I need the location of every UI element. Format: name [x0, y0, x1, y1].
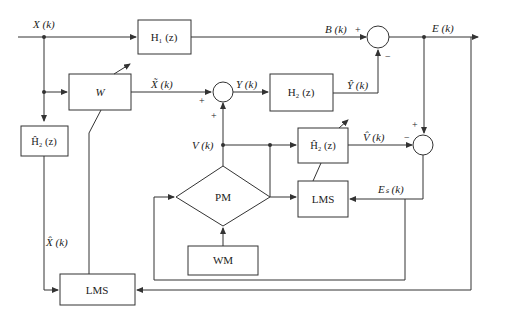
label-y: Y (k) — [236, 78, 257, 91]
block-lms-right-label: LMS — [312, 193, 335, 205]
label-vhat: V̂ (k) — [363, 131, 385, 144]
lms-to-h2hat-line — [313, 163, 321, 181]
block-h2hat-left: Ĥ₂ (z) — [21, 126, 68, 156]
label-e: E (k) — [431, 22, 454, 35]
block-h2: H₂ (z) — [270, 74, 333, 111]
h2hat-adapt-arrow — [339, 120, 348, 128]
label-x: X (k) — [32, 18, 55, 31]
label-es: Eₛ (k) — [377, 183, 404, 196]
block-lms-bottom: LMS — [60, 274, 135, 305]
block-wm: WM — [188, 246, 258, 275]
lms-to-w-line — [89, 110, 101, 274]
block-pm-label: PM — [215, 191, 231, 203]
sum-junction-error — [367, 26, 389, 48]
label-xhat: X̂ (k) — [45, 236, 68, 249]
sign-vhat-minus: − — [404, 132, 410, 143]
block-wm-label: WM — [213, 254, 233, 266]
block-h2hat-left-label: Ĥ₂ (z) — [31, 136, 57, 148]
adaptive-noise-cancellation-diagram: X (k) H₁ (z) B (k) + − E (k) W X̃ (k) + … — [0, 0, 508, 322]
label-yhat: Ŷ (k) — [347, 79, 368, 92]
block-h1-label: H₁ (z) — [151, 31, 178, 44]
block-h2hat-right-label: Ĥ₂ (z) — [310, 140, 336, 152]
w-adapt-arrow — [114, 64, 130, 74]
label-xtilde: X̃ (k) — [150, 78, 173, 91]
sign-v-plus: + — [211, 110, 217, 121]
block-lms-bottom-label: LMS — [86, 284, 109, 296]
sign-e-plus: + — [412, 119, 418, 130]
label-b: B (k) — [325, 23, 347, 36]
block-h2-label: H₂ (z) — [288, 86, 315, 99]
block-lms-right: LMS — [298, 181, 348, 217]
block-w-label: W — [95, 86, 105, 98]
block-pm: PM — [176, 166, 270, 226]
label-v: V (k) — [192, 139, 214, 152]
sum-junction-es — [413, 135, 433, 155]
block-h1: H₁ (z) — [138, 20, 191, 54]
sign-yhat-minus: − — [385, 51, 391, 62]
sign-xtilde-plus: + — [199, 95, 205, 106]
block-w: W — [69, 74, 131, 110]
sign-b-plus: + — [355, 24, 361, 35]
block-h2hat-right: Ĥ₂ (z) — [298, 128, 348, 163]
xhat-line — [44, 156, 58, 290]
sum-junction-y — [213, 82, 233, 102]
